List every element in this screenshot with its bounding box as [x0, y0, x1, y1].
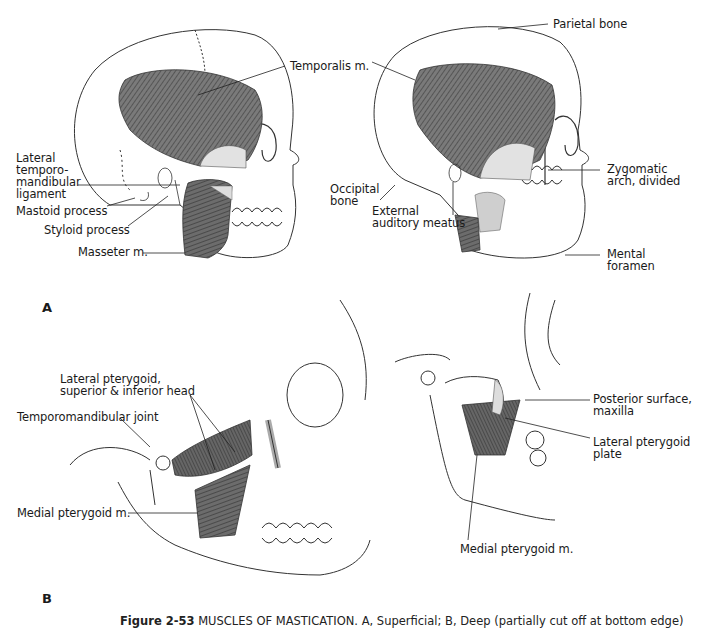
label-zygomatic-arch: Zygomatic arch, divided — [607, 163, 680, 187]
label-mastoid-process: Mastoid process — [16, 205, 107, 217]
label-mental-foramen: Mental foramen — [607, 248, 655, 272]
panel-label-a: A — [42, 300, 52, 315]
panel-label-b: B — [42, 591, 52, 606]
label-medial-pterygoid-b-left: Medial pterygoid m. — [17, 507, 130, 519]
masseter-cut-region — [475, 192, 505, 232]
label-lateral-pterygoid: Lateral pterygoid, superior & inferior h… — [60, 373, 195, 397]
label-temporalis: Temporalis m. — [290, 60, 369, 72]
medial-pterygoid-muscle — [195, 465, 250, 538]
label-masseter: Masseter m. — [78, 246, 148, 258]
figure-caption: Figure 2-53 MUSCLES OF MASTICATION. A, S… — [120, 614, 683, 628]
label-external-auditory-meatus: External auditory meatus — [372, 205, 465, 229]
caption-text: MUSCLES OF MASTICATION. A, Superficial; … — [198, 614, 683, 628]
label-lateral-pterygoid-plate: Lateral pterygoid plate — [593, 436, 690, 460]
label-tmj: Temporomandibular joint — [17, 411, 158, 423]
label-styloid-process: Styloid process — [44, 224, 130, 236]
label-parietal-bone: Parietal bone — [553, 18, 627, 30]
caption-number: Figure 2-53 — [120, 614, 194, 628]
label-lateral-tm-ligament: Lateral temporo- mandibular ligament — [16, 152, 81, 200]
label-medial-pterygoid-b-right: Medial pterygoid m. — [460, 543, 573, 555]
temporalis-muscle-a-right — [413, 64, 555, 178]
medial-pterygoid-muscle-b-right — [462, 400, 520, 455]
label-posterior-surface-maxilla: Posterior surface, maxilla — [593, 393, 692, 417]
lateral-pterygoid-muscle — [172, 420, 252, 476]
